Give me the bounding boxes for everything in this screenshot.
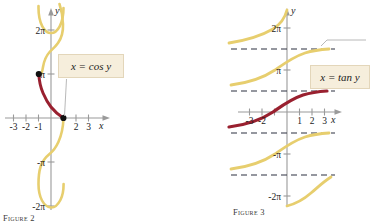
y-tick-label: π (276, 66, 281, 76)
x-axis-label: x (98, 120, 104, 131)
y-tick-label: -π (273, 150, 281, 160)
callout-leader-line (321, 40, 366, 46)
figure-3-container: y x -3 -2 1 2 3 2π π -π -2π x = tan y (183, 0, 366, 224)
y-axis-label: y (54, 5, 60, 16)
x-tick-label: -1 (35, 122, 43, 132)
figure-2-caption: Figure 2 (3, 213, 35, 223)
endpoint-1-zero (60, 115, 66, 121)
figure-3-plot: y x -3 -2 1 2 3 2π π -π -2π (183, 0, 366, 224)
callout-cos-label: x = cos y (58, 54, 124, 78)
callout-leader-line (65, 79, 67, 116)
x-tick-labels: -3 -2 1 2 3 (246, 116, 328, 126)
x-tick-label: -2 (22, 122, 30, 132)
y-tick-label: -π (37, 158, 45, 168)
x-axis-arrowhead (335, 109, 343, 115)
y-tick-label: 2π (271, 24, 281, 34)
x-axis-label: x (330, 114, 336, 125)
x-tick-label: 3 (322, 116, 327, 126)
figure-2-container: y x -3 -2 -1 2 3 2π π -π -2π x = cos y F… (0, 0, 183, 224)
figure-3-caption: Figure 3 (233, 207, 265, 217)
y-tick-label: π (40, 70, 45, 80)
x-tick-label: 2 (74, 122, 79, 132)
callout-tan-label: x = tan y (310, 65, 370, 89)
y-tick-label: -2π (268, 192, 281, 202)
x-tick-label: 2 (310, 116, 315, 126)
y-tick-label: 2π (35, 26, 45, 36)
x-tick-label: 3 (86, 122, 91, 132)
x-tick-labels: -3 -2 -1 2 3 (10, 122, 92, 132)
x-axis-arrowhead (103, 115, 111, 121)
figure-2-plot: y x -3 -2 -1 2 3 2π π -π -2π (0, 0, 183, 224)
y-tick-label: -2π (32, 202, 45, 212)
x-tick-label: -2 (258, 116, 266, 126)
x-tick-label: -3 (246, 116, 254, 126)
tan-branch-bottom (287, 177, 331, 206)
x-tick-label: 1 (297, 116, 302, 126)
y-axis-label: y (290, 5, 296, 16)
x-tick-label: -3 (10, 122, 18, 132)
